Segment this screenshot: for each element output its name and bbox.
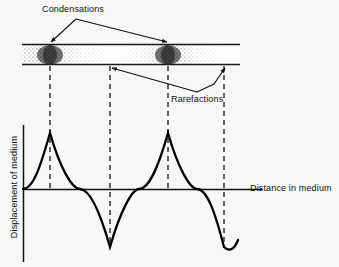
sound-wave-diagram: Condensations Rarefactions Distance in m…: [0, 0, 339, 267]
x-axis-label: Distance in medium: [250, 183, 332, 193]
medium-tube: [22, 45, 240, 66]
displacement-curve: [23, 133, 238, 250]
condensations-label: Condensations: [42, 4, 104, 14]
axes: [23, 125, 262, 262]
rarefactions-label: Rarefactions: [171, 94, 223, 104]
condensation-leader-lines: [51, 19, 167, 42]
diagram-canvas: [0, 0, 339, 267]
y-axis-label: Displacement of medium: [9, 127, 19, 247]
